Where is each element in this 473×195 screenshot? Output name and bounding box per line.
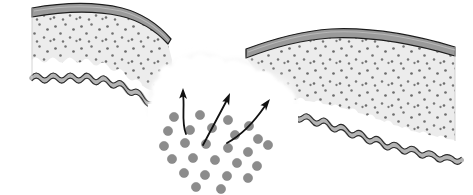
- particle: [263, 140, 272, 149]
- particle: [180, 138, 189, 147]
- particle: [232, 158, 241, 167]
- particle: [195, 110, 204, 119]
- particle: [252, 161, 261, 170]
- particle: [210, 155, 219, 164]
- tissue-penetration-figure: Particle penetration through a breached …: [0, 0, 473, 195]
- particle: [167, 154, 176, 163]
- particle: [223, 143, 232, 152]
- particle: [179, 168, 188, 177]
- particle: [169, 112, 178, 121]
- particle: [253, 134, 262, 143]
- particle: [222, 171, 231, 180]
- particle: [216, 184, 225, 193]
- particle: [243, 173, 252, 182]
- particle: [188, 153, 197, 162]
- particle: [163, 126, 172, 135]
- diagram-canvas: [0, 0, 473, 195]
- particle: [243, 147, 252, 156]
- particle: [223, 115, 232, 124]
- particle: [200, 170, 209, 179]
- particle: [191, 182, 200, 191]
- particle: [185, 125, 194, 134]
- particle: [159, 141, 168, 150]
